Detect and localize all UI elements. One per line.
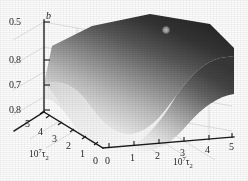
- y-tick-label-1: 1: [80, 148, 85, 159]
- z-tick-label-0: 0.5: [9, 16, 21, 27]
- y-tick-label-2: 2: [66, 140, 71, 151]
- surface-plot-figure: b 0.5 0.8 0.7 0.8 5 4 3 2 1 0 107τ2 0 1 …: [0, 0, 248, 181]
- y-axis-title: 107τ2: [29, 147, 49, 161]
- x-axis-title-subscript: 2: [190, 162, 193, 169]
- x-tick-label-4: 4: [205, 144, 210, 155]
- y-tick-label-4: 4: [38, 126, 43, 137]
- y-axis-title-subscript: 2: [46, 154, 49, 161]
- z-tick-label-1: 0.8: [9, 54, 21, 65]
- y-tick-label-5: 5: [25, 118, 30, 129]
- x-tick-label-1: 1: [130, 152, 135, 163]
- x-tick-label-0: 0: [105, 155, 110, 166]
- x-axis-title-base: 10: [173, 157, 183, 167]
- x-tick-label-2: 2: [155, 150, 160, 161]
- y-tick-label-3: 3: [52, 133, 57, 144]
- z-axis-title: b: [46, 10, 51, 21]
- y-tick-label-0: 0: [93, 155, 98, 166]
- y-axis-title-base: 10: [29, 149, 39, 159]
- z-tick-label-3: 0.8: [9, 104, 21, 115]
- z-tick-label-2: 0.7: [9, 79, 21, 90]
- x-axis-title: 107τ2: [173, 155, 193, 169]
- x-tick-label-5: 5: [229, 141, 234, 152]
- highlight-spot-marker: [162, 26, 171, 35]
